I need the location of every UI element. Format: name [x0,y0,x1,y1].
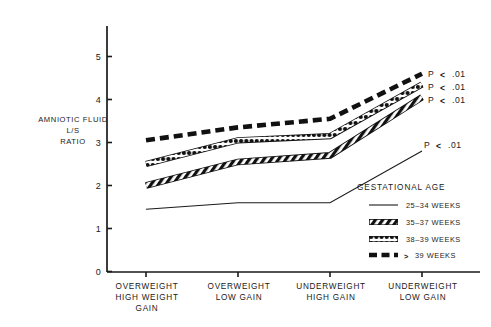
x-category-2-line1: HIGH GAIN [306,293,355,302]
p-value-2: .01 [452,82,465,92]
p-annotation-over-39-weeks: P < .01 [428,69,465,80]
y-tick-label-4: 4 [96,95,101,105]
x-category-3-line1: LOW GAIN [400,293,447,302]
p-label-4: P [424,140,430,150]
x-category-label-0: OVERWEIGHT HIGH WEIGHT GAIN [115,282,178,313]
p-label-2: P [428,82,434,92]
chart-figure: 0 1 2 3 4 5 AMNIOTIC FLUID L/S RATIO P [0,0,491,327]
legend-title: GESTATIONAL AGE [357,183,445,192]
x-category-2-line0: UNDERWEIGHT [296,282,365,291]
y-tick-label-0: 0 [96,267,101,277]
x-category-0-line2: GAIN [136,304,159,313]
p-label-3: P [428,95,434,105]
x-category-label-3: UNDERWEIGHT LOW GAIN [388,282,457,302]
x-category-3-line0: UNDERWEIGHT [388,282,457,291]
less-than-icon-2: < [440,83,446,93]
legend-item-38-39-weeks: 38–39 WEEKS [369,235,461,244]
legend-label-1: 35–37 WEEKS [406,218,461,227]
x-category-1-line0: OVERWEIGHT [208,282,271,291]
x-category-1-line1: LOW GAIN [216,293,263,302]
y-tick-label-2: 2 [96,181,101,191]
y-tick-label-5: 5 [96,52,101,62]
x-category-label-1: OVERWEIGHT LOW GAIN [208,282,271,302]
legend-label-2: 38–39 WEEKS [406,235,461,244]
p-annotation-35-37-weeks: P < .01 [428,95,465,106]
legend-label-0: 25–34 WEEKS [406,201,461,210]
y-axis-title-line3: RATIO [60,137,86,146]
p-label-1: P [428,69,434,79]
p-annotation-25-34-weeks: P < .01 [424,140,461,151]
y-tick-label-1: 1 [96,224,101,234]
x-category-0-line1: HIGH WEIGHT [115,293,178,302]
legend-item-25-34-weeks: 25–34 WEEKS [369,201,461,210]
legend: GESTATIONAL AGE 25–34 WEEKS 35–37 WEEKS … [357,183,461,261]
legend-item-35-37-weeks: 35–37 WEEKS [369,218,461,227]
x-axis-category-labels: OVERWEIGHT HIGH WEIGHT GAIN OVERWEIGHT L… [115,282,457,313]
p-value-annotations: P < .01 P < .01 P < .01 P < .01 [424,69,465,151]
y-tick-label-3: 3 [96,138,101,148]
legend-item-over-39-weeks: > 39 WEEKS [369,251,456,261]
y-axis-title-line1: AMNIOTIC FLUID [38,115,108,124]
y-axis-title-line2: L/S [66,126,79,135]
less-than-icon-1: < [440,70,446,80]
chart-canvas: 0 1 2 3 4 5 AMNIOTIC FLUID L/S RATIO P [0,0,491,327]
less-than-icon-4: < [436,141,442,151]
less-than-icon-3: < [440,96,446,106]
x-category-label-2: UNDERWEIGHT HIGH GAIN [296,282,365,302]
p-value-3: .01 [452,95,465,105]
legend-label-3: 39 WEEKS [415,251,456,260]
legend-swatch-beaded-icon [370,237,398,242]
p-value-1: .01 [452,69,465,79]
legend-swatch-hatched-icon [370,220,398,225]
p-value-4: .01 [448,140,461,150]
greater-than-icon: > [404,252,409,261]
p-annotation-38-39-weeks: P < .01 [428,82,465,93]
x-category-0-line0: OVERWEIGHT [116,282,179,291]
